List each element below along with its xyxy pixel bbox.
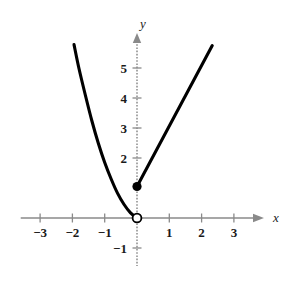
x-axis-tick-label: 3 [231, 225, 238, 240]
x-axis-name-label: x [272, 210, 279, 225]
y-axis-name-label: y [138, 16, 146, 31]
y-axis-tick-label: 4 [121, 91, 128, 106]
function-branch-left-branch-parabola [74, 45, 137, 218]
function-branch-right-branch-line [137, 46, 212, 187]
x-axis-tick-label: 2 [198, 225, 205, 240]
x-axis-tick-label: −3 [33, 225, 47, 240]
y-axis-tick-label: 2 [121, 151, 128, 166]
x-axis-tick-label: 1 [166, 225, 173, 240]
coordinate-plane: −3−2−1123−12345xy [0, 0, 293, 288]
x-axis-arrowhead [253, 214, 264, 222]
closed-endpoint-dot [132, 182, 141, 191]
y-axis-tick-label: 5 [121, 61, 128, 76]
open-endpoint-circle [133, 214, 142, 223]
x-axis-tick-label: −2 [65, 225, 79, 240]
x-axis-tick-label: −1 [98, 225, 112, 240]
y-axis-tick-label: 3 [121, 121, 128, 136]
y-axis-tick-label: −1 [113, 241, 127, 256]
graph-figure: −3−2−1123−12345xy [0, 0, 293, 288]
y-axis-arrowhead [133, 33, 141, 43]
